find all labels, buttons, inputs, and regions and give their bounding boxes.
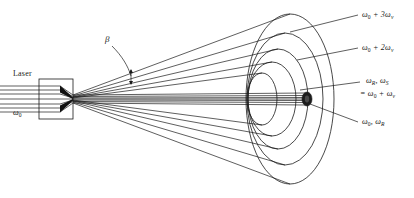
ring-label-inner: ω0, ωR: [362, 117, 385, 127]
axial-beam-bundle: [73, 93, 305, 105]
input-frequency-label: ω0: [13, 108, 22, 118]
beta-angle-label: β: [105, 34, 110, 44]
ring-label-second: ω0 + 2ωv: [362, 43, 394, 53]
ring-label-outer: ω0 + 3ωv: [362, 10, 394, 20]
laser-label: Laser: [13, 69, 32, 78]
ring-label-third-line2: = ω0 + ωv: [360, 89, 395, 99]
raman-cone-diagram: [0, 0, 414, 198]
laser-beam-lines: [0, 86, 60, 112]
ring-label-third-line1: ωR, ωS: [366, 76, 389, 86]
label-leader-lines: [290, 15, 360, 122]
